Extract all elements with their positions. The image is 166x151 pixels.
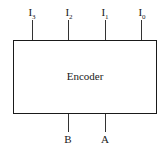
input-line-i0 bbox=[141, 20, 142, 40]
input-line-i2 bbox=[68, 20, 69, 40]
input-label-i2: I2 bbox=[59, 6, 79, 21]
input-line-i1 bbox=[105, 20, 106, 40]
input-label-i1: I1 bbox=[95, 6, 115, 21]
input-label-i3: I3 bbox=[22, 6, 42, 21]
output-label-b: B bbox=[58, 133, 78, 145]
output-line-b bbox=[68, 114, 69, 132]
output-label-a: A bbox=[95, 133, 115, 145]
input-label-i0: I0 bbox=[132, 6, 152, 21]
encoder-title: Encoder bbox=[14, 70, 156, 82]
encoder-block: Encoder bbox=[13, 40, 157, 114]
input-line-i3 bbox=[32, 20, 33, 40]
output-line-a bbox=[105, 114, 106, 132]
